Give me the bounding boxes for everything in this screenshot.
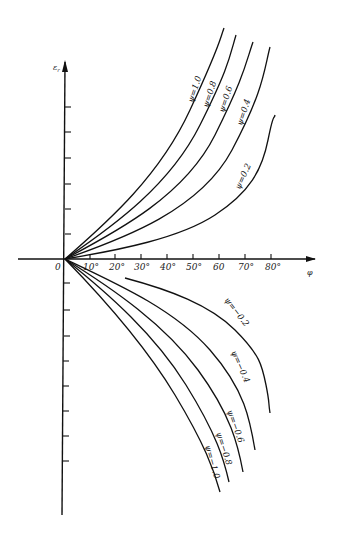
x-tick-60: 60 [213, 262, 225, 272]
x-axis-arrow-icon [306, 256, 316, 262]
curve-psi-0.6 [65, 42, 253, 259]
label-psi-0.4: ψ=0.4 [234, 98, 252, 127]
x-tick-20: 20° [108, 262, 125, 272]
negative-curves [65, 259, 270, 492]
x-tick-30: 30° [134, 262, 150, 272]
x-tick-50: 50° [186, 262, 202, 272]
label-psi-neg-0.6: ψ=−0.6 [225, 408, 246, 444]
curve-labels: ψ=1.0 ψ=0.8 ψ=0.6 ψ=0.4 ψ=0.2 ψ=−0.2 ψ=−… [185, 74, 253, 480]
y-axis-label: εr [53, 63, 60, 73]
y-axis-arrow-icon [62, 60, 68, 72]
label-psi-0.2: ψ=0.2 [233, 162, 253, 191]
curve-psi-1.0 [65, 28, 224, 259]
x-ticks [90, 254, 271, 259]
y-axis [62, 62, 65, 515]
strain-chart: 0 10° 20° 30° 40° 50° 60 70° 80° φ εr ψ=… [0, 0, 337, 543]
x-tick-80: 80° [265, 262, 281, 272]
curve-psi-0.8 [65, 35, 236, 259]
x-tick-70: 70° [238, 262, 254, 272]
axes [18, 60, 316, 515]
label-psi-1.0: ψ=1.0 [185, 74, 203, 104]
curve-psi-0.4 [65, 47, 270, 259]
label-psi-neg-0.4: ψ=−0.4 [229, 349, 252, 385]
curve-psi-neg-0.2 [125, 278, 270, 413]
positive-curves [65, 28, 275, 259]
curve-psi-neg-0.4 [65, 259, 255, 450]
label-psi-0.8: ψ=0.8 [200, 79, 218, 109]
origin-label: 0 [55, 262, 61, 272]
x-tick-40: 40° [159, 262, 176, 272]
curve-psi-neg-1.0 [65, 259, 220, 492]
x-tick-10: 10° [83, 262, 99, 272]
x-axis-label: φ [307, 268, 313, 277]
